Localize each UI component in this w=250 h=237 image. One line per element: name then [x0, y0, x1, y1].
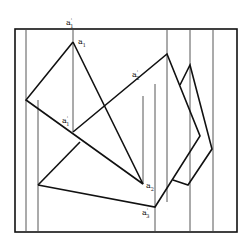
label-a3-prime: a'3 — [142, 207, 149, 219]
triangle-edges — [26, 42, 143, 184]
label-a2-prime: a'2 — [132, 69, 139, 81]
projection-lines — [26, 29, 213, 232]
label-a1: a1 — [78, 37, 86, 48]
diagonal-edge — [38, 142, 80, 185]
projection-diagram: a'1 a1 a'2 a'1 a2 a'3 — [0, 0, 250, 237]
quadrilateral-right — [38, 54, 212, 207]
label-a2: a2 — [146, 181, 154, 192]
triangle-left — [26, 42, 143, 184]
label-a1-prime-top: a'1 — [66, 17, 73, 29]
polygon-edges — [38, 54, 200, 207]
label-a1-prime-mid: a'1 — [62, 115, 69, 127]
